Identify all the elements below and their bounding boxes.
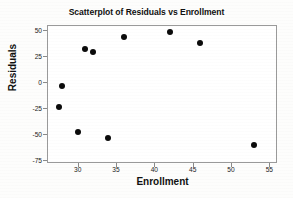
y-tick-mark (43, 82, 47, 83)
x-tick-mark (193, 163, 194, 167)
x-axis-label: Enrollment (47, 176, 278, 187)
data-point (75, 129, 81, 135)
x-tick-label: 50 (216, 166, 246, 173)
y-tick-mark (43, 30, 47, 31)
x-tick-mark (231, 163, 232, 167)
x-tick-label: 30 (63, 166, 93, 173)
x-tick-mark (154, 163, 155, 167)
x-tick-label: 55 (254, 166, 284, 173)
x-tick-label: 45 (178, 166, 208, 173)
y-tick-mark (43, 56, 47, 57)
scatterplot-figure: Scatterplot of Residuals vs Enrollment R… (0, 0, 293, 198)
data-point (167, 29, 173, 35)
y-tick-mark (43, 134, 47, 135)
y-tick-label: 25 (16, 53, 42, 60)
y-tick-label: -50 (16, 130, 42, 137)
data-point (197, 40, 203, 46)
y-tick-label: 50 (16, 27, 42, 34)
chart-title: Scatterplot of Residuals vs Enrollment (0, 7, 293, 17)
y-tick-label: 0 (16, 79, 42, 86)
data-point (56, 104, 62, 110)
data-point (90, 49, 96, 55)
y-tick-mark (43, 108, 47, 109)
x-tick-mark (269, 163, 270, 167)
y-tick-mark (43, 160, 47, 161)
y-tick-label: -75 (16, 156, 42, 163)
x-tick-mark (78, 163, 79, 167)
x-tick-label: 35 (101, 166, 131, 173)
y-axis-label: Residuals (7, 33, 18, 103)
x-tick-mark (116, 163, 117, 167)
plot-area (47, 25, 277, 163)
y-tick-label: -25 (16, 105, 42, 112)
x-tick-label: 40 (139, 166, 169, 173)
